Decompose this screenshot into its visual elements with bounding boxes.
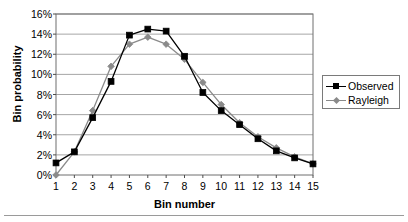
diamond-marker-icon (332, 96, 339, 103)
chart-figure: Bin probability 0%2%4%6%8%10%12%14%16% 1… (0, 0, 408, 222)
data-point-marker-observed (200, 90, 206, 96)
x-axis-tick-label: 3 (90, 180, 96, 192)
data-point-marker-observed (237, 122, 243, 128)
x-axis-title: Bin number (56, 198, 313, 210)
x-axis-tick-label: 9 (200, 180, 206, 192)
x-axis-tick-label: 12 (252, 180, 264, 192)
legend-line-rayleigh (326, 95, 346, 105)
x-axis-tick-label: 7 (163, 180, 169, 192)
legend-label-observed: Observed (348, 80, 394, 92)
data-point-marker-observed (71, 149, 77, 155)
data-point-marker-observed (310, 161, 316, 167)
data-point-marker-observed (108, 79, 114, 85)
data-point-marker-observed (90, 115, 96, 121)
data-point-marker-observed (273, 148, 279, 154)
chart-legend: Observed Rayleigh (322, 75, 400, 109)
x-axis-tick-label: 4 (108, 180, 114, 192)
legend-line-observed (326, 81, 346, 91)
data-point-marker-observed (127, 32, 133, 38)
data-point-marker-observed (182, 53, 188, 59)
data-point-marker-observed (292, 155, 298, 161)
series-line-observed (56, 29, 313, 164)
legend-item-observed: Observed (326, 79, 400, 93)
legend-label-rayleigh: Rayleigh (348, 94, 389, 106)
legend-item-rayleigh: Rayleigh (326, 93, 400, 107)
data-point-marker-observed (163, 28, 169, 34)
x-axis-tick-label: 11 (234, 180, 245, 192)
data-point-marker-observed (53, 160, 59, 166)
x-axis-tick-label: 10 (215, 180, 227, 192)
x-axis-tick-label: 14 (289, 180, 301, 192)
data-point-marker-observed (218, 108, 224, 114)
x-axis-tick-label: 2 (71, 180, 77, 192)
data-point-marker-observed (255, 136, 261, 142)
x-axis-tick-label: 6 (145, 180, 151, 192)
footer-rule (4, 215, 404, 216)
x-axis-tick-label: 5 (127, 180, 133, 192)
x-axis-tick-label: 15 (307, 180, 319, 192)
x-axis-tick-label: 13 (270, 180, 282, 192)
data-point-marker-rayleigh (144, 34, 151, 41)
square-marker-icon (333, 83, 339, 89)
x-axis-tick-label: 8 (182, 180, 188, 192)
data-point-marker-observed (145, 26, 151, 32)
x-axis-tick-label: 1 (53, 180, 59, 192)
